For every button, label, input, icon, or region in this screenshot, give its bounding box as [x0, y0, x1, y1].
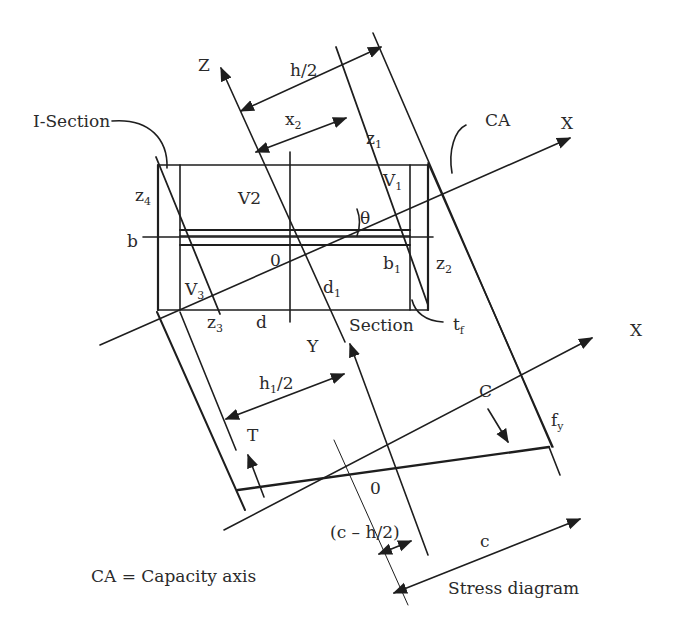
c-dim-label: c [480, 533, 490, 550]
z1-label: z1 [366, 130, 382, 150]
z2-line [428, 163, 553, 447]
t-force-label: T [247, 427, 258, 444]
legend-label: CA = Capacity axis [91, 568, 256, 585]
tf-label: tf [453, 316, 464, 336]
d-label: d [256, 314, 267, 331]
fy-label: fy [551, 412, 564, 432]
c-arrow [488, 409, 508, 442]
x2-label: x2 [285, 111, 302, 131]
c-minus-h2-dim [379, 541, 411, 554]
section-label: Section [349, 317, 414, 334]
z3-label: z3 [207, 314, 223, 334]
capacity-axis [100, 138, 570, 345]
z1-line [336, 47, 428, 305]
b-label: b [127, 233, 138, 250]
fy-extension [549, 447, 560, 475]
ca-label: CA [485, 112, 510, 129]
i-section-label: I-Section [33, 113, 110, 130]
diagram-canvas: I-Section Z h/2 x2 z1 CA X z4 V2 V1 θ b … [0, 0, 682, 629]
i-section-leader [112, 121, 167, 168]
v1-label: V1 [383, 172, 402, 192]
c-minus-h2-label: (c – h/2) [330, 524, 400, 541]
theta-label: θ [360, 210, 370, 227]
stress-line [238, 447, 549, 490]
v2-label: V2 [238, 190, 261, 207]
origin-top-label: 0 [270, 252, 281, 269]
y-axis-label: Y [307, 338, 318, 355]
x-axis-top-label: X [561, 115, 573, 132]
h1-half-label: h1/2 [259, 375, 294, 395]
z2-label: z2 [436, 255, 452, 275]
b1-label: b1 [383, 255, 401, 275]
stress-diagram-label: Stress diagram [448, 580, 579, 597]
z-axis-label: Z [198, 57, 210, 74]
x-axis-bottom-label: X [630, 322, 642, 339]
z4-label: z4 [135, 187, 151, 207]
t-arrow [248, 455, 264, 497]
ca-leader [451, 125, 466, 173]
v3-label: V3 [185, 281, 204, 301]
lower-left-outer [157, 312, 245, 510]
h-half-label: h/2 [290, 62, 318, 79]
c-force-label: C [479, 383, 492, 400]
origin-bottom-label: 0 [370, 480, 381, 497]
d1-label: d1 [323, 279, 341, 299]
